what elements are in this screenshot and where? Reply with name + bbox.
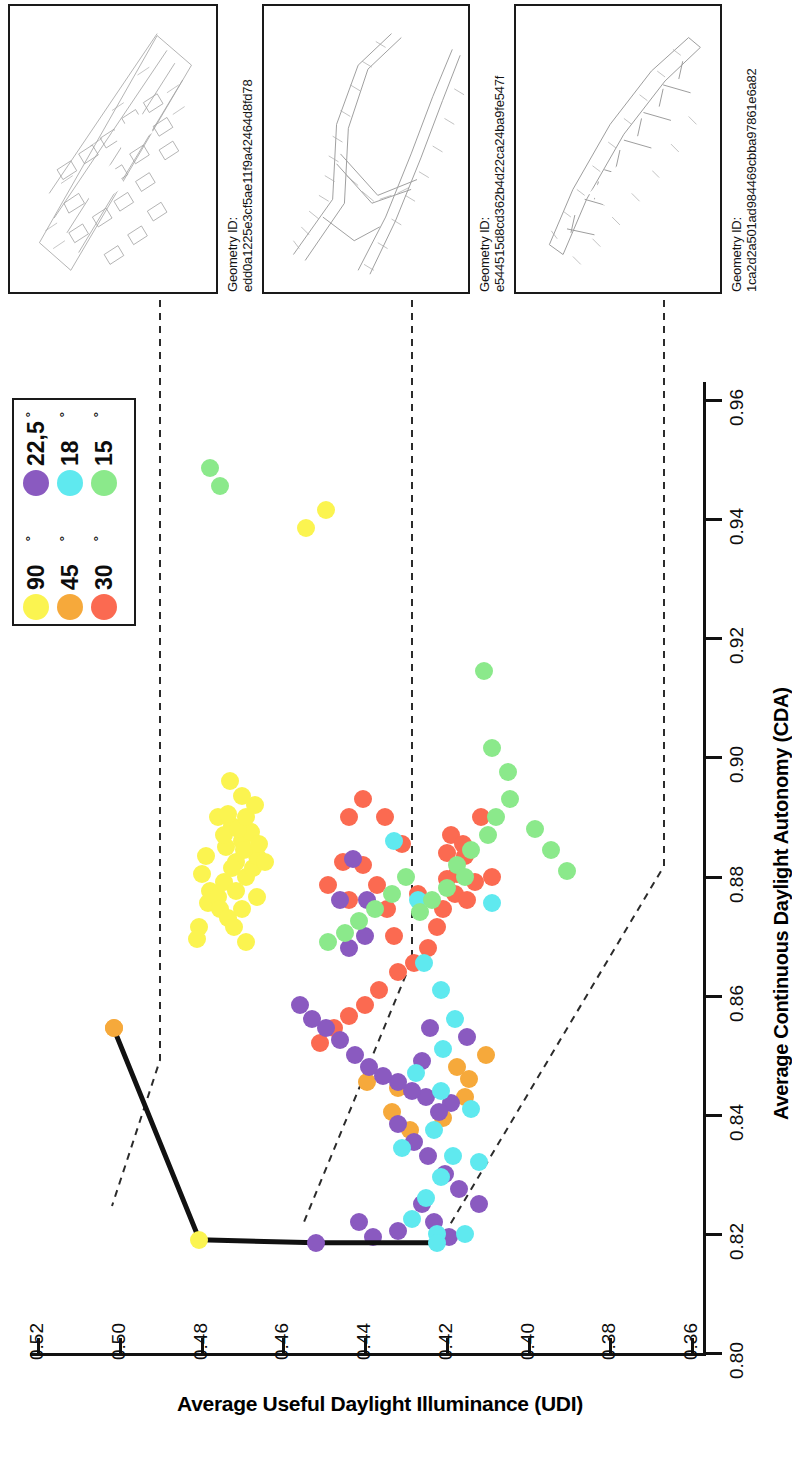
cda-tick	[706, 399, 722, 402]
geometry-thumbnail-box-2	[262, 4, 470, 294]
cda-tick	[706, 876, 722, 879]
cda-tick	[706, 518, 722, 521]
geometry-thumbnail-box-1	[8, 4, 218, 294]
geometry-id-label-1: Geometry ID: edd0a1225e3cf5ae11f9a42464d…	[226, 14, 264, 292]
geometry-id-value-2: e544515d8cd362b4d22ca24ba9fe547f	[492, 76, 507, 292]
geometry-id-label-3: Geometry ID: 1ca2d2a501ad984469cbba97861…	[730, 14, 768, 292]
cda-tick-label: 0.92	[726, 612, 748, 664]
cda-tick-label: 0.96	[726, 374, 748, 426]
cda-tick-label: 0.84	[726, 1089, 748, 1141]
geometry-id-caption-1: Geometry ID:	[225, 217, 240, 292]
cda-tick	[706, 995, 722, 998]
cda-tick	[706, 1352, 722, 1355]
cda-tick-label: 0.80	[726, 1327, 748, 1379]
geometry-render-2	[264, 6, 468, 292]
cda-tick	[706, 637, 722, 640]
cda-tick-label: 0.82	[726, 1208, 748, 1260]
geometry-id-value-3: 1ca2d2a501ad984469cbba97861e6a82	[744, 69, 759, 293]
cda-tick	[706, 756, 722, 759]
cda-tick-label: 0.90	[726, 731, 748, 783]
cda-tick-label: 0.86	[726, 970, 748, 1022]
pareto-vertex-point	[428, 1234, 446, 1252]
cda-axis-title: Average Continuous Daylight Autonomy (CD…	[770, 640, 793, 1120]
cda-tick	[706, 1114, 722, 1117]
geometry-id-caption-2: Geometry ID:	[477, 217, 492, 292]
pareto-front-line	[0, 300, 700, 1356]
geometry-id-caption-3: Geometry ID:	[729, 217, 744, 292]
cda-tick-label: 0.88	[726, 851, 748, 903]
geometry-render-3	[516, 6, 720, 292]
pareto-vertex-point	[307, 1234, 325, 1252]
cda-axis-line	[703, 382, 706, 1356]
cda-tick-label: 0.94	[726, 493, 748, 545]
geometry-render-1	[10, 6, 216, 292]
geometry-id-value-1: edd0a1225e3cf5ae11f9a42464d8fd78	[240, 80, 255, 292]
cda-tick	[706, 1233, 722, 1236]
pareto-vertex-point	[105, 1019, 123, 1037]
geometry-thumbnail-box-3	[514, 4, 722, 294]
scatter-plot-area	[0, 300, 700, 1356]
geometry-id-label-2: Geometry ID: e544515d8cd362b4d22ca24ba9f…	[478, 14, 516, 292]
